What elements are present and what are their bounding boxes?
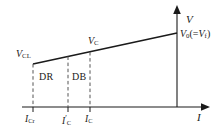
region-label-db: DB — [72, 72, 86, 82]
characteristic-line — [33, 33, 177, 64]
curve-label-vcl-sub: CL — [22, 52, 31, 59]
curve-label-v0-paren-close: ) — [207, 28, 210, 39]
x-axis-arrowhead — [201, 103, 210, 111]
tick-label-icr: ICr — [25, 115, 35, 125]
curve-label-vc-sub: C — [94, 39, 99, 46]
curve-label-vc: VC — [88, 36, 99, 47]
region-label-dr: DR — [39, 72, 53, 82]
tick-label-ic: IC — [85, 115, 92, 125]
tick-label-ic-prime-sub: C — [67, 119, 71, 126]
tick-label-ic-sub: C — [88, 117, 92, 124]
curve-label-v0-paren-open: (= — [190, 28, 199, 39]
y-axis-arrowhead — [173, 5, 181, 14]
curve-label-vcl: VCL — [16, 49, 31, 60]
y-axis-label: V — [186, 14, 193, 25]
vi-characteristic-figure: V I VCL VC V0(=Vf) DR DB ICr I′C IC — [0, 0, 224, 137]
tick-label-ic-prime: I′C — [62, 115, 71, 127]
curve-label-v0: V0(=Vf) — [180, 29, 210, 40]
x-axis-label: I — [197, 112, 201, 123]
tick-label-icr-sub: Cr — [28, 117, 34, 124]
